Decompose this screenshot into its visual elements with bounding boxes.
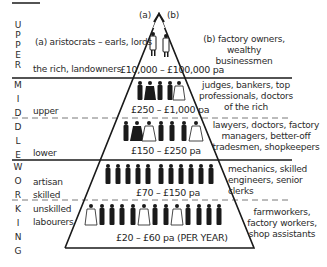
lower-middle-left-label: lower	[33, 148, 57, 159]
letter: D	[13, 106, 23, 120]
desc-line: shop assistants	[240, 229, 324, 240]
letter: P	[13, 30, 23, 40]
desc-line: (b) factory owners, wealthy	[188, 34, 300, 56]
letter: O	[13, 174, 23, 188]
income-upper: £10,000 – £100,000 pa	[120, 64, 224, 75]
figures-skilled-working	[106, 164, 214, 184]
desc-line: engineers, senior	[228, 175, 312, 186]
letter: W	[13, 160, 23, 174]
letter: U	[13, 20, 23, 30]
upper-left-label-a: (a) aristocrats – earls, lords	[35, 37, 152, 48]
desc-line: managers, better-off	[212, 131, 320, 142]
desc-line: professionals, doctors	[196, 91, 296, 102]
label-line: unskilled	[33, 203, 74, 216]
vertical-label-working: W O R K I N G	[13, 160, 23, 258]
letter: N	[13, 230, 23, 244]
desc-line: tradesmen, shopkeepers	[212, 142, 320, 153]
letter: P	[13, 40, 23, 50]
letter: M	[13, 78, 23, 92]
desc-line: of the rich	[196, 102, 296, 113]
letter: I	[13, 216, 23, 230]
income-lower-middle: £150 – £250 pa	[131, 145, 201, 156]
income-skilled-working: £70 – £150 pa	[136, 187, 200, 198]
vertical-label-upper: U P P E R	[13, 20, 23, 70]
letter: R	[13, 60, 23, 70]
desc-line: lawyers, doctors, factory	[212, 120, 320, 131]
desc-line: judges, bankers, top	[196, 80, 296, 91]
letter: I	[13, 92, 23, 106]
upper-middle-left-label: upper	[33, 106, 58, 117]
label-line: skilled	[33, 189, 63, 202]
upper-right-desc: (b) factory owners, wealthy businessmen	[188, 34, 300, 67]
figures-lower-middle	[124, 121, 204, 141]
income-unskilled-working: £20 – £60 pa (PER YEAR)	[116, 232, 228, 243]
vertical-label-middle: M I D D L E	[13, 78, 23, 162]
letter: G	[13, 244, 23, 258]
desc-line: clerks	[228, 186, 312, 197]
letter: E	[13, 50, 23, 60]
marker-b: (b)	[167, 10, 179, 21]
letter: L	[13, 134, 23, 148]
figures-upper-middle	[138, 81, 186, 100]
income-upper-middle: £250 – £1,000 pa	[131, 104, 209, 115]
desc-line: mechanics, skilled	[228, 164, 312, 175]
desc-line: farmworkers,	[240, 207, 324, 218]
letter: D	[13, 120, 23, 134]
letter: K	[13, 202, 23, 216]
desc-line: factory workers,	[240, 218, 324, 229]
figures-unskilled-working	[85, 204, 222, 225]
lower-middle-right-desc: lawyers, doctors, factory managers, bett…	[212, 120, 320, 153]
skilled-working-left-label: artisan skilled	[33, 176, 63, 202]
figures-upper	[150, 32, 169, 57]
marker-a: (a)	[139, 10, 151, 21]
label-line: labourers	[33, 216, 74, 229]
letter: R	[13, 188, 23, 202]
unskilled-working-left-label: unskilled labourers	[33, 203, 74, 229]
unskilled-working-right-desc: farmworkers, factory workers, shop assis…	[240, 207, 324, 240]
label-line: artisan	[33, 176, 63, 189]
upper-left-label-b: the rich, landowners	[33, 64, 121, 75]
skilled-working-right-desc: mechanics, skilled engineers, senior cle…	[228, 164, 312, 197]
upper-middle-right-desc: judges, bankers, top professionals, doct…	[196, 80, 296, 113]
